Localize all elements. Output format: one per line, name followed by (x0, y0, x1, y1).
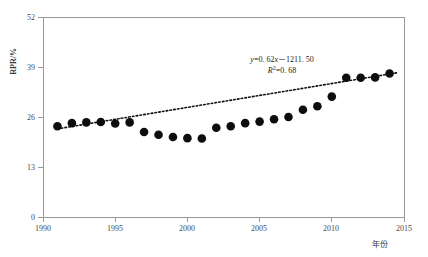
equation-slope: =0. 62 (254, 55, 275, 64)
x-tick-label-1995: 1995 (107, 224, 123, 233)
equation-text: y=0. 62x－1211. 50 (249, 55, 313, 64)
x-tick-label-2015: 2015 (396, 224, 412, 233)
data-point (68, 119, 77, 128)
data-point (53, 122, 62, 131)
data-point (342, 73, 351, 82)
data-point (328, 92, 337, 101)
data-point (154, 130, 163, 139)
data-point (371, 73, 380, 82)
plot-frame (43, 17, 404, 217)
data-point (212, 123, 221, 132)
data-point (313, 102, 322, 111)
data-point (385, 69, 394, 78)
r-squared-value: =0. 68 (276, 66, 297, 75)
y-tick-label-13: 13 (27, 163, 35, 172)
data-point (125, 118, 134, 127)
r-squared-text: R2=0. 68 (267, 65, 296, 75)
x-axis-ticks (43, 217, 404, 222)
y-tick-label-26: 26 (27, 113, 35, 122)
y-axis-tick-labels: 52 39 26 13 0 (27, 13, 35, 222)
data-point (284, 113, 293, 122)
data-point (169, 133, 178, 142)
x-tick-label-2005: 2005 (251, 224, 267, 233)
y-axis-title: RPR/% (9, 48, 18, 75)
data-point (183, 134, 192, 143)
x-tick-label-2010: 2010 (323, 224, 339, 233)
x-axis-title: 年份 (372, 239, 388, 249)
data-point (111, 119, 120, 128)
x-tick-label-1990: 1990 (35, 224, 51, 233)
plot-border (43, 17, 404, 217)
data-point (198, 134, 207, 143)
data-point (356, 73, 365, 82)
data-point (241, 119, 250, 128)
data-points-group (53, 69, 394, 143)
x-axis-tick-labels: 1990 1995 2000 2005 2010 2015 (35, 224, 412, 233)
data-point (140, 128, 149, 137)
regression-annotation: y=0. 62x－1211. 50 R2=0. 68 (249, 55, 313, 75)
y-tick-label-39: 39 (27, 63, 35, 72)
chart-figure: 52 39 26 13 0 1990 1995 2000 2005 2010 2… (0, 0, 428, 257)
y-tick-label-0: 0 (31, 213, 35, 222)
data-point (299, 105, 308, 114)
x-tick-label-2000: 2000 (179, 224, 195, 233)
data-point (270, 115, 279, 124)
scatter-plot-svg: 52 39 26 13 0 1990 1995 2000 2005 2010 2… (0, 0, 428, 257)
data-point (96, 118, 105, 127)
data-point (255, 117, 264, 126)
data-point (82, 118, 91, 127)
y-axis-ticks (38, 17, 43, 217)
equation-intercept: －1211. 50 (278, 55, 314, 64)
y-tick-label-52: 52 (27, 13, 35, 22)
data-point (226, 122, 235, 131)
